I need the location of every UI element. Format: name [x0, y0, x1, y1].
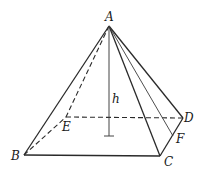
- edge-ED-hidden: [66, 117, 183, 118]
- slant-height-AF: [109, 26, 173, 136]
- label-F: F: [175, 132, 185, 146]
- edge-BC: [24, 155, 160, 156]
- label-A: A: [104, 10, 114, 24]
- pyramid-diagram: A B C D E F h: [0, 0, 206, 175]
- label-C: C: [164, 155, 173, 169]
- label-D: D: [183, 111, 194, 125]
- label-B: B: [10, 149, 20, 163]
- label-h: h: [112, 92, 120, 106]
- edge-AB: [24, 26, 109, 155]
- edge-AE-hidden: [66, 26, 109, 117]
- edge-AD: [109, 26, 183, 118]
- edge-AC: [109, 26, 160, 156]
- label-E: E: [61, 120, 71, 134]
